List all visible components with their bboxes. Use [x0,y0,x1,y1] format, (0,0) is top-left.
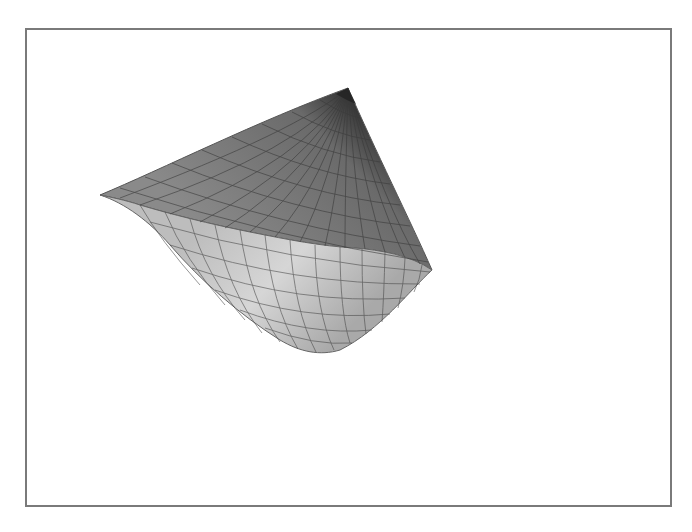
surface-plot [0,0,692,532]
